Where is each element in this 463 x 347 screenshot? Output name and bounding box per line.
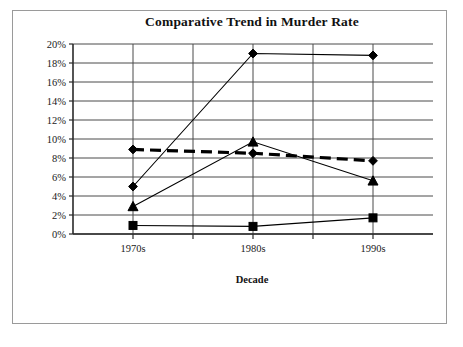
y-tick-label: 16% bbox=[47, 77, 67, 88]
x-category-label: 1970s bbox=[120, 243, 145, 254]
y-tick-label: 10% bbox=[47, 134, 67, 145]
y-tick-label: 4% bbox=[52, 191, 66, 202]
x-axis-title: Decade bbox=[236, 274, 269, 285]
series-steep-diamond-marker-diamond bbox=[369, 51, 378, 60]
series-flat-dashed-diamond-marker-diamond bbox=[129, 145, 138, 154]
x-category-label: 1990s bbox=[360, 243, 385, 254]
x-category-label: 1980s bbox=[240, 243, 265, 254]
y-tick-label: 0% bbox=[52, 229, 66, 240]
y-tick-label: 2% bbox=[52, 210, 66, 221]
y-tick-label: 18% bbox=[47, 58, 67, 69]
chart-page: Comparative Trend in Murder Rate 0%2%4%6… bbox=[0, 0, 463, 347]
series-peak-triangle-marker-triangle bbox=[248, 137, 258, 146]
y-tick-label: 8% bbox=[52, 153, 66, 164]
series-low-square-marker-square bbox=[369, 214, 377, 222]
murder-rate-line-chart: Comparative Trend in Murder Rate 0%2%4%6… bbox=[0, 0, 463, 347]
y-axis-tick-labels: 0%2%4%6%8%10%12%14%16%18%20% bbox=[47, 39, 67, 240]
x-axis-category-labels: 1970s1980s1990s bbox=[120, 243, 385, 254]
series-peak-triangle-marker-triangle bbox=[128, 201, 138, 210]
y-tick-label: 12% bbox=[47, 115, 67, 126]
y-tick-label: 14% bbox=[47, 96, 67, 107]
chart-title: Comparative Trend in Murder Rate bbox=[145, 14, 359, 29]
series-flat-dashed-diamond-marker-diamond bbox=[249, 149, 258, 158]
series-low-square-marker-square bbox=[249, 222, 257, 230]
series-low-square-marker-square bbox=[129, 221, 137, 229]
y-tick-label: 20% bbox=[47, 39, 67, 50]
y-tick-label: 6% bbox=[52, 172, 66, 183]
